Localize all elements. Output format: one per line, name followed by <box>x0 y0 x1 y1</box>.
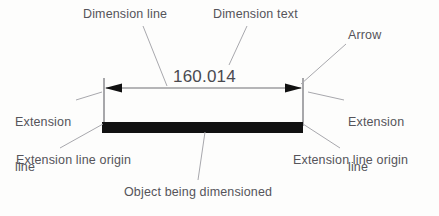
label-arrow: Arrow <box>348 28 381 43</box>
dimension-text-value: 160.014 <box>173 67 236 87</box>
arrowhead-right <box>285 84 302 93</box>
object-leader <box>198 132 205 180</box>
label-object-being-dimensioned: Object being dimensioned <box>124 185 272 200</box>
label-extension-line-left-row1: Extension <box>15 115 71 130</box>
label-extension-line-right: Extension line <box>348 85 404 205</box>
extension-line-right-leader <box>308 92 344 100</box>
label-extension-line-origin-left: Extension line origin <box>16 153 131 168</box>
label-extension-line-left: Extension line <box>15 85 71 205</box>
arrow-leader <box>301 44 346 84</box>
label-extension-line-right-row1: Extension <box>348 115 404 130</box>
extension-line-left-leader <box>76 92 102 100</box>
label-extension-line-origin-right: Extension line origin <box>293 153 408 168</box>
dimension-text-leader <box>229 26 247 65</box>
label-dimension-text: Dimension text <box>213 7 298 22</box>
origin-right-leader <box>303 124 340 148</box>
label-dimension-line: Dimension line <box>83 7 167 22</box>
object-bar <box>102 122 303 133</box>
arrowhead-left <box>105 84 122 93</box>
dimension-line-leader <box>143 26 167 86</box>
diagram-canvas: 160.014 Dimension line Dimension text Ar… <box>0 0 439 216</box>
